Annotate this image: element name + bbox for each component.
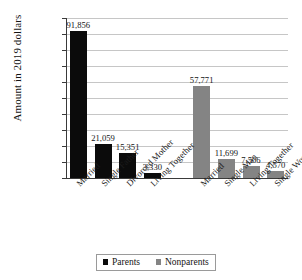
gridline	[66, 82, 288, 83]
bar-nonparents-4	[193, 86, 210, 178]
gridline	[66, 66, 288, 67]
gridline	[66, 18, 288, 19]
y-axis-title: Amount in 2019 dollars	[11, 0, 23, 143]
bar-value-label: 15,351	[106, 143, 150, 152]
bar-value-label: 91,856	[56, 21, 100, 30]
y-axis-line	[66, 18, 67, 178]
gridline	[66, 50, 288, 51]
gridline	[66, 130, 288, 131]
gridline	[66, 34, 288, 35]
bar-chart: Amount in 2019 dollars 100,00090,00080,0…	[0, 0, 302, 280]
legend-swatch-icon	[103, 259, 108, 265]
legend-label: Parents	[112, 257, 140, 267]
legend-label: Nonparents	[165, 257, 209, 267]
gridline	[66, 98, 288, 99]
legend-item-parents[interactable]: Parents	[103, 257, 140, 267]
bar-value-label: 57,771	[180, 76, 224, 85]
bar-parents-0	[70, 31, 87, 178]
legend-item-nonparents[interactable]: Nonparents	[156, 257, 209, 267]
legend-swatch-icon	[156, 259, 161, 265]
gridline	[66, 114, 288, 115]
legend: ParentsNonparents	[96, 254, 216, 271]
